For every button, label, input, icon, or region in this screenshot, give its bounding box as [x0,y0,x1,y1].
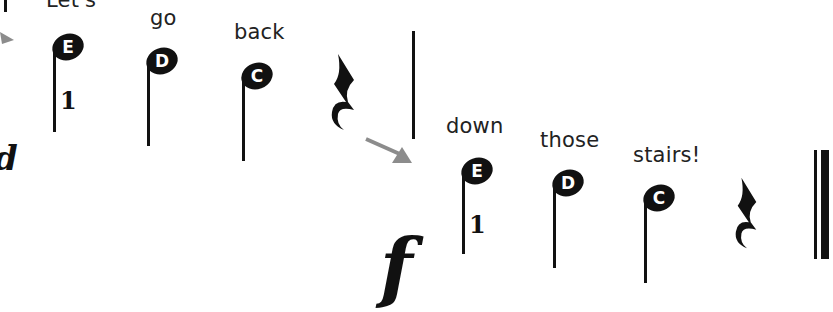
arrow-icon [0,28,20,48]
fingering-number: 1 [469,210,486,239]
lyric-word: down [446,114,503,138]
barline [412,31,415,139]
note-stem [242,75,245,161]
quarter-rest-icon [734,176,760,252]
lyric-word: Let's [46,0,96,12]
note-stem [53,46,56,132]
dynamic-marking: d [0,138,18,178]
note-letter: C [241,63,273,89]
note-e: E 1 [461,158,501,298]
note-stem [462,170,465,254]
note-stem [553,182,556,268]
note-letter: D [146,48,178,74]
note-d: D [552,170,592,310]
note-c: C [643,185,683,312]
final-barline-thin [814,150,817,259]
note-c: C [241,63,281,203]
lyric-word: stairs! [633,143,700,167]
quarter-rest-icon [330,54,358,132]
lyric-word: back [234,20,285,44]
note-e: E 1 [52,34,92,174]
note-letter: D [552,170,584,196]
note-letter: E [52,34,84,60]
dynamic-marking: f [380,222,413,312]
partial-barline-left [4,0,7,12]
fingering-number: 1 [60,86,77,115]
note-d: D [146,48,186,188]
final-barline-thick [821,150,829,259]
lyric-word: go [150,6,177,30]
note-stem [147,60,150,146]
lyric-word: those [540,128,599,152]
note-letter: C [643,185,675,211]
note-letter: E [461,158,493,184]
arrow-icon [364,135,416,167]
note-stem [644,197,647,283]
